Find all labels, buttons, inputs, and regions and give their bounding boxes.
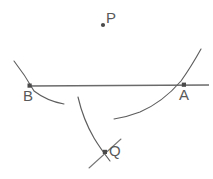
point-dot-p: [101, 23, 105, 27]
point-dot-q: [103, 150, 107, 154]
point-label-a: A: [179, 87, 189, 102]
point-label-b: B: [23, 88, 33, 103]
arc-through-b: [14, 61, 64, 104]
point-label-p: P: [106, 10, 116, 25]
arc-through-a: [114, 49, 201, 119]
geometric-construction-figure: P B A Q: [0, 0, 213, 179]
point-label-q: Q: [109, 143, 121, 158]
